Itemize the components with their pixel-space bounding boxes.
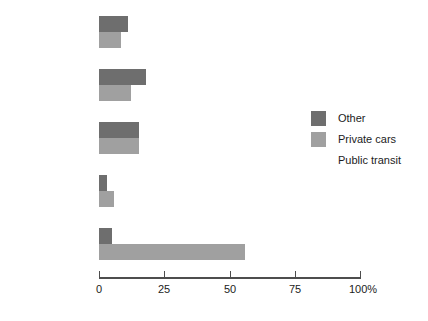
bar-private-cars-puebla xyxy=(99,85,131,101)
x-axis-label-0: 0 xyxy=(96,283,102,296)
x-axis-label-75: 75 xyxy=(289,283,301,296)
bar-private-cars-san-salvador xyxy=(99,191,114,207)
x-axis-tick-25 xyxy=(164,271,165,277)
x-axis-tick-50 xyxy=(230,271,231,277)
x-axis-tick-75 xyxy=(295,271,296,277)
legend-label-other: Other xyxy=(338,112,366,125)
bar-other-san-jose xyxy=(99,122,139,138)
legend-label-private-cars: Private cars xyxy=(338,133,396,146)
bar-private-cars-san-jose xyxy=(99,138,139,154)
bar-other-puebla xyxy=(99,69,146,85)
x-axis-tick-0 xyxy=(99,271,100,277)
bar-other-san-salvador xyxy=(99,175,107,191)
legend-swatch-public-transit xyxy=(311,153,326,168)
bar-other-belo-horizonte xyxy=(99,16,128,32)
legend-swatch-other xyxy=(311,111,326,126)
x-axis: 0 25 50 75 100% xyxy=(99,277,361,279)
legend-label-public-transit: Public transit xyxy=(338,154,401,167)
legend-swatch-private-cars xyxy=(311,132,326,147)
bar-other-montreal xyxy=(99,228,112,244)
x-axis-label-25: 25 xyxy=(158,283,170,296)
bar-private-cars-montreal xyxy=(99,244,245,260)
bar-private-cars-belo-horizonte xyxy=(99,32,121,48)
x-axis-label-50: 50 xyxy=(224,283,236,296)
x-axis-label-100: 100% xyxy=(349,283,377,296)
bar-chart: Belo Horizonte Puebla San José San Salva… xyxy=(0,0,428,321)
x-axis-tick-100 xyxy=(360,271,361,277)
